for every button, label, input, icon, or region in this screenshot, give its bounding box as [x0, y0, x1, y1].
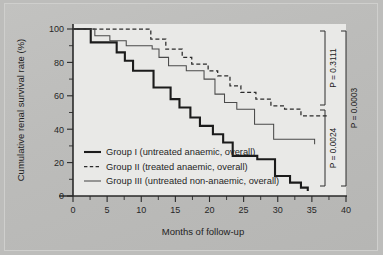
x-tick-label: 0	[70, 205, 75, 215]
x-tick-label: 35	[307, 205, 317, 215]
legend-label-3: Group III (untreated non-anaemic, overal…	[106, 176, 279, 186]
y-tick-label: 20	[54, 158, 64, 168]
x-tick-label: 40	[341, 205, 351, 215]
p-value-group2-vs-group3: P = 0.3111	[328, 48, 338, 88]
x-tick-label: 30	[273, 205, 283, 215]
figure-container: 020406080100 0510152025303540 Months of …	[0, 0, 383, 255]
x-axis-ticks	[73, 196, 346, 202]
y-tick-label: 0	[59, 191, 64, 201]
legend-label-1: Group I (untreated anaemic, overall)	[106, 147, 255, 157]
x-tick-label: 25	[239, 205, 249, 215]
x-tick-label: 20	[204, 205, 214, 215]
x-axis-title: Months of follow-up	[162, 226, 244, 237]
x-tick-label: 15	[170, 205, 180, 215]
y-tick-label: 80	[54, 58, 64, 68]
y-tick-label: 40	[54, 125, 64, 135]
x-tick-label: 5	[105, 205, 110, 215]
p-value-group1-vs-group2: P = 0.0003	[349, 87, 359, 128]
survival-chart: 020406080100 0510152025303540 Months of …	[0, 0, 383, 255]
y-tick-label: 100	[49, 24, 64, 34]
y-axis-tick-labels: 020406080100	[49, 24, 64, 201]
y-tick-label: 60	[54, 91, 64, 101]
y-axis-ticks	[67, 29, 73, 196]
x-axis-tick-labels: 0510152025303540	[70, 205, 351, 215]
p-value-group1-vs-group3: P = 0.0024	[328, 127, 338, 168]
y-axis-title: Cumulative renal survival rate (%)	[15, 39, 26, 182]
legend-label-2: Group II (treated anaemic, overall)	[106, 162, 248, 172]
x-tick-label: 10	[136, 205, 146, 215]
